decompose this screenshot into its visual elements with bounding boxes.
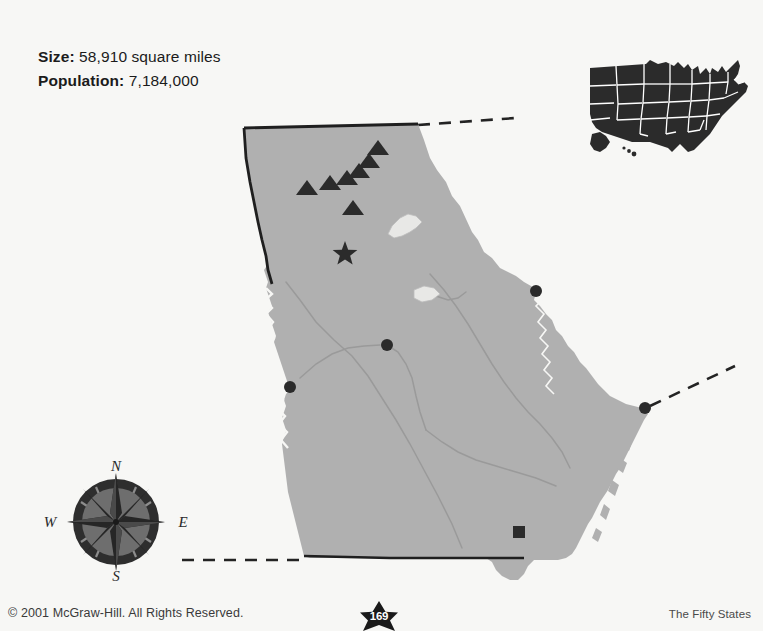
city-marker [381,339,393,351]
compass-south-label: S [112,568,120,583]
city-marker [530,285,542,297]
compass-west-label: W [44,514,58,530]
city-marker [284,381,296,393]
dashed-boundary-east [650,366,735,406]
us-alaska-silhouette [590,132,610,152]
compass-rose: N W E S [38,455,193,583]
state-map-page: Size: 58,910 square miles Population: 7,… [0,0,763,631]
sea-island [592,528,602,542]
city-marker [639,402,651,414]
compass-east-label: E [177,514,187,530]
page-number: 169 [349,610,409,622]
page-number-badge: 169 [349,601,409,631]
us-mainland-group [590,60,748,152]
copyright-notice: © 2001 McGraw-Hill. All Rights Reserved. [8,606,244,620]
united-states-locator-inset [588,42,763,170]
sea-island [600,504,610,520]
compass-center-hub [113,519,119,525]
dashed-boundary-north [418,118,516,125]
landmark-marker [513,526,525,538]
series-title: The Fifty States [669,608,751,620]
us-hawaii-silhouette [622,146,636,156]
us-inset-svg [588,42,763,170]
compass-rose-svg: N W E S [38,455,193,583]
compass-north-label: N [110,458,122,474]
